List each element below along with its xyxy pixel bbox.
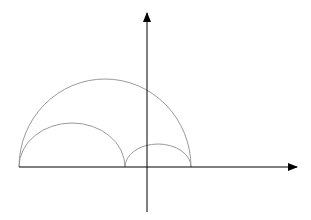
medium-arc — [19, 123, 125, 167]
large-arc — [19, 79, 191, 167]
small-arc — [125, 144, 191, 167]
diagram-canvas — [0, 0, 311, 220]
arcs-group — [19, 79, 191, 167]
